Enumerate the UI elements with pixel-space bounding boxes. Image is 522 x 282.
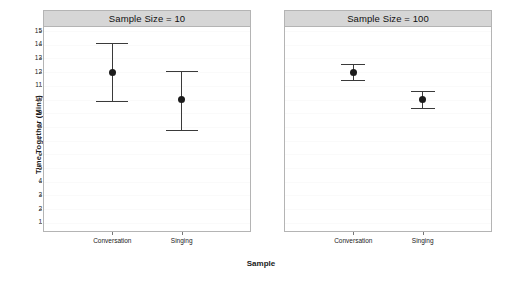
gridline <box>285 113 491 114</box>
y-tick-mark <box>39 58 42 59</box>
gridline <box>285 182 491 183</box>
error-bar-upper-cap <box>96 43 128 44</box>
y-tick-mark <box>39 141 42 142</box>
y-tick-mark <box>39 154 42 155</box>
panel-strip-header-1: Sample Size = 100 <box>285 11 491 27</box>
gridline <box>44 45 250 46</box>
gridline <box>285 141 491 142</box>
y-tick-mark <box>39 127 42 128</box>
x-tick-label: Singing <box>378 237 468 244</box>
panel-strip-label-0: Sample Size = 10 <box>109 13 185 24</box>
error-bar-lower-cap <box>166 130 198 131</box>
gridline <box>44 182 250 183</box>
gridline <box>44 86 250 87</box>
y-tick-mark <box>39 31 42 32</box>
data-point-conversation <box>350 69 357 76</box>
gridline <box>44 195 250 196</box>
gridline <box>44 100 250 101</box>
y-tick-mark <box>39 113 42 114</box>
error-bar-lower-cap <box>411 108 435 109</box>
y-tick-mark <box>39 45 42 46</box>
gridline <box>44 72 250 73</box>
gridline <box>285 168 491 169</box>
gridline <box>44 58 250 59</box>
error-bar-lower-cap <box>96 101 128 102</box>
gridline <box>44 223 250 224</box>
gridline <box>285 72 491 73</box>
y-tick-mark <box>39 86 42 87</box>
gridline <box>285 154 491 155</box>
gridline <box>44 209 250 210</box>
y-tick-mark <box>39 195 42 196</box>
x-axis-title: Sample <box>0 259 522 268</box>
y-tick-mark <box>39 72 42 73</box>
error-bar-upper-cap <box>341 64 365 65</box>
gridline <box>285 58 491 59</box>
panel-sample-size-100: Sample Size = 100 <box>284 10 492 232</box>
y-tick-mark <box>39 223 42 224</box>
y-tick-mark <box>39 100 42 101</box>
x-tick-label: Singing <box>137 237 227 244</box>
y-tick-mark <box>39 182 42 183</box>
gridline <box>44 141 250 142</box>
x-tick-mark <box>112 232 113 235</box>
gridline <box>44 31 250 32</box>
x-tick-mark <box>182 232 183 235</box>
error-bar-lower-cap <box>341 80 365 81</box>
error-bar-upper-cap <box>411 91 435 92</box>
gridline <box>285 209 491 210</box>
panel-strip-label-1: Sample Size = 100 <box>347 13 429 24</box>
y-tick-mark <box>39 168 42 169</box>
y-axis: 123456789101112131415 <box>20 0 42 282</box>
gridline <box>285 223 491 224</box>
panel-strip-header-0: Sample Size = 10 <box>44 11 250 27</box>
gridline <box>44 113 250 114</box>
gridline <box>285 100 491 101</box>
gridline <box>285 86 491 87</box>
gridline <box>44 168 250 169</box>
plot-area-0 <box>44 27 250 231</box>
faceted-errorbar-chart: Time Together (Mins) 1234567891011121314… <box>0 0 522 282</box>
gridline <box>285 195 491 196</box>
x-tick-mark <box>353 232 354 235</box>
gridline <box>44 154 250 155</box>
y-tick-mark <box>39 209 42 210</box>
gridline <box>285 31 491 32</box>
data-point-conversation <box>109 69 116 76</box>
panel-sample-size-10: Sample Size = 10 <box>43 10 251 232</box>
x-tick-mark <box>423 232 424 235</box>
error-bar-upper-cap <box>166 71 198 72</box>
plot-area-1 <box>285 27 491 231</box>
gridline <box>285 127 491 128</box>
gridline <box>44 127 250 128</box>
gridline <box>285 45 491 46</box>
